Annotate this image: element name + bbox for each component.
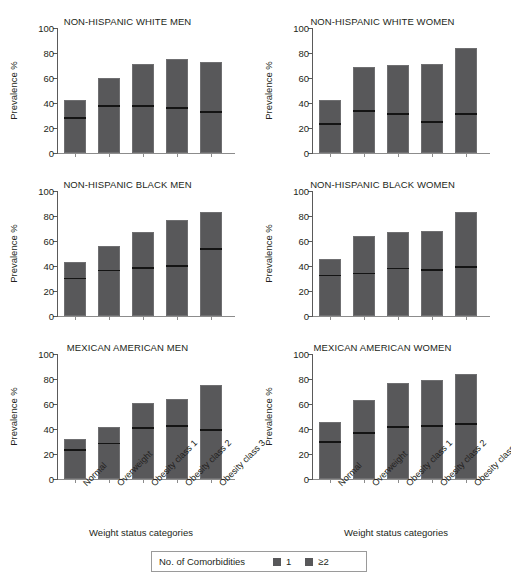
legend-entry: ≥2 xyxy=(305,556,329,567)
legend-label: 1 xyxy=(286,556,291,567)
yaxis-tick-label: 0 xyxy=(304,311,309,322)
yaxis-label: Prevalence % xyxy=(8,28,22,153)
stacked-bar xyxy=(353,67,375,153)
yaxis-tick-label: 20 xyxy=(298,123,309,134)
stacked-bar xyxy=(421,64,443,153)
yaxis-tick-label: 20 xyxy=(298,286,309,297)
bar-segment-divider xyxy=(455,266,477,268)
xaxis-line xyxy=(312,153,490,154)
xaxis-tick xyxy=(109,153,110,157)
yaxis-tick-label: 0 xyxy=(49,148,54,159)
bar-segment-divider xyxy=(319,123,341,125)
yaxis-tick-label: 40 xyxy=(298,424,309,435)
yaxis-line xyxy=(312,191,313,316)
stacked-bar xyxy=(319,259,341,316)
xaxis-tick-label: Obesity class 2 xyxy=(183,481,190,488)
chart-panel: MEXICAN AMERICAN MENPrevalence %02040608… xyxy=(0,334,255,500)
xaxis-tick xyxy=(211,153,212,157)
yaxis-line xyxy=(57,28,58,153)
stacked-bar xyxy=(166,59,188,153)
stacked-bar xyxy=(319,100,341,153)
xaxis-line xyxy=(57,316,235,317)
xaxis-tick-label: Overweight xyxy=(370,481,377,488)
stacked-bar xyxy=(64,439,86,479)
xaxis-line xyxy=(312,316,490,317)
chart-panel: NON-HISPANIC BLACK MENPrevalence %020406… xyxy=(0,171,255,337)
bar-segment-divider xyxy=(319,441,341,443)
yaxis-label: Prevalence % xyxy=(263,191,277,316)
yaxis-tick-label: 60 xyxy=(298,73,309,84)
xaxis-tick xyxy=(466,316,467,320)
bar-segment-divider xyxy=(166,265,188,267)
xaxis-tick xyxy=(75,316,76,320)
bar-segment-divider xyxy=(353,273,375,275)
stacked-bar xyxy=(166,220,188,316)
bar-segment-divider xyxy=(166,107,188,109)
xaxis-tick xyxy=(211,316,212,320)
stacked-bar xyxy=(387,65,409,153)
bar-segment-divider xyxy=(64,449,86,451)
stacked-bar xyxy=(455,48,477,153)
bar-segment-divider xyxy=(98,270,120,272)
xaxis-tick-label: Obesity class 3 xyxy=(217,481,224,488)
bar-segment-divider xyxy=(166,425,188,427)
chart-panel: NON-HISPANIC BLACK WOMENPrevalence %0204… xyxy=(255,171,510,337)
xaxis-tick-label: Overweight xyxy=(115,481,122,488)
bar-segment-divider xyxy=(353,432,375,434)
yaxis-tick-label: 20 xyxy=(298,449,309,460)
stacked-bar xyxy=(64,100,86,153)
stacked-bar xyxy=(132,64,154,153)
yaxis-tick-label: 20 xyxy=(43,449,54,460)
xaxis-tick xyxy=(109,316,110,320)
legend-label: ≥2 xyxy=(318,556,329,567)
yaxis-label: Prevalence % xyxy=(263,354,277,479)
bar-segment-divider xyxy=(455,423,477,425)
legend-entry: 1 xyxy=(273,556,291,567)
legend-swatch xyxy=(273,558,281,566)
xaxis-title-left: Weight status categories xyxy=(46,527,236,538)
yaxis-label: Prevalence % xyxy=(8,191,22,316)
bar-segment-divider xyxy=(353,110,375,112)
chart-panel: MEXICAN AMERICAN WOMENPrevalence %020406… xyxy=(255,334,510,500)
chart-panel: NON-HISPANIC WHITE WOMENPrevalence %0204… xyxy=(255,8,510,174)
plot-area: 020406080100 xyxy=(58,28,228,153)
xaxis-tick xyxy=(143,316,144,320)
yaxis-tick-label: 40 xyxy=(43,98,54,109)
bar-segment-divider xyxy=(98,443,120,445)
bar-segment-divider xyxy=(421,425,443,427)
legend-swatch xyxy=(305,558,313,566)
yaxis-tick-label: 60 xyxy=(43,399,54,410)
xaxis-tick-label: Obesity class 1 xyxy=(404,481,411,488)
xaxis-tick xyxy=(432,316,433,320)
yaxis-line xyxy=(312,354,313,479)
stacked-bar xyxy=(387,232,409,316)
xaxis-tick xyxy=(364,153,365,157)
yaxis-tick-label: 60 xyxy=(298,399,309,410)
yaxis-tick-label: 100 xyxy=(293,349,309,360)
yaxis-line xyxy=(57,354,58,479)
yaxis-tick-label: 100 xyxy=(38,23,54,34)
bar-segment-divider xyxy=(200,429,222,431)
bar-segment-divider xyxy=(200,248,222,250)
yaxis-tick-label: 40 xyxy=(298,261,309,272)
stacked-bar xyxy=(319,422,341,479)
yaxis-tick-label: 0 xyxy=(49,474,54,485)
bar-segment-divider xyxy=(421,121,443,123)
yaxis-tick-label: 80 xyxy=(43,48,54,59)
stacked-bar xyxy=(132,232,154,316)
legend-entries: 1≥2 xyxy=(273,556,343,567)
xaxis-title-right: Weight status categories xyxy=(301,527,491,538)
yaxis-tick-label: 40 xyxy=(43,424,54,435)
yaxis-tick-label: 80 xyxy=(298,374,309,385)
yaxis-tick-label: 80 xyxy=(298,211,309,222)
yaxis-tick-label: 60 xyxy=(43,73,54,84)
xaxis-tick xyxy=(466,153,467,157)
bar-segment-divider xyxy=(200,111,222,113)
yaxis-tick-label: 40 xyxy=(298,98,309,109)
bar-segment-divider xyxy=(387,113,409,115)
plot-area: 020406080100 xyxy=(313,191,483,316)
bar-segment-divider xyxy=(387,426,409,428)
stacked-bar xyxy=(353,236,375,316)
xaxis-tick xyxy=(330,316,331,320)
figure-container: NON-HISPANIC WHITE MENPrevalence %020406… xyxy=(0,0,511,581)
